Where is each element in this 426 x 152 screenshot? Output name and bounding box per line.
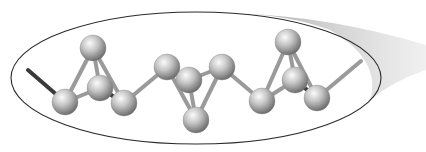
atom-a2 [80, 35, 106, 61]
atom-a12 [304, 85, 330, 111]
atom-a5 [154, 54, 180, 80]
atom-a3 [87, 75, 113, 101]
atom-a10 [275, 29, 301, 55]
atom-a7 [183, 107, 209, 133]
atom-a8 [209, 54, 235, 80]
atom-a1 [52, 89, 78, 115]
atom-a6 [176, 67, 202, 93]
molecular-chain-diagram [0, 0, 426, 152]
atom-a11 [282, 67, 308, 93]
atom-a9 [249, 88, 275, 114]
atom-a4 [111, 90, 137, 116]
